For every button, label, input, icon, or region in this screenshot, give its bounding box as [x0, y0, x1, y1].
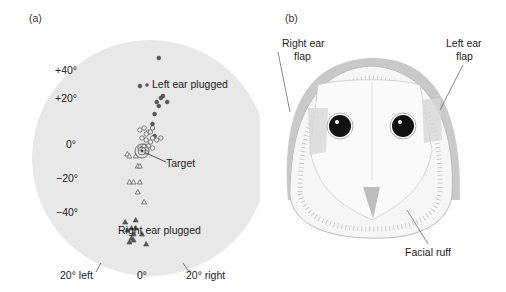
data-point: [157, 104, 161, 108]
data-point: [144, 138, 148, 142]
data-point: [150, 146, 154, 150]
panel-a: (a) +40° +20° 0° −20° −40° Left ear plug…: [0, 0, 260, 292]
data-point: [155, 100, 159, 104]
panel-label: (a): [29, 12, 42, 24]
y-tick: −20°: [56, 172, 78, 184]
data-point: [140, 136, 144, 140]
left-eye: [392, 115, 414, 137]
data-point: [148, 130, 152, 134]
y-tick: −40°: [56, 206, 78, 218]
data-point: [138, 84, 142, 88]
data-point: [153, 112, 157, 116]
y-tick: +40°: [55, 64, 77, 76]
right-eye: [329, 115, 351, 137]
panel-label: (b): [285, 12, 298, 24]
data-point: [144, 132, 148, 136]
left-ear-flap-label: flap: [456, 50, 473, 62]
data-point: [157, 56, 161, 60]
x-tick: 20° right: [186, 269, 225, 281]
right-ear-flap-label: flap: [294, 50, 311, 62]
left-ear-flap: [422, 98, 442, 143]
data-point: [161, 94, 165, 98]
data-point: [151, 122, 155, 126]
target-label: Target: [166, 157, 195, 169]
left-ear-flap-label: Left ear: [446, 37, 482, 49]
x-tick: 20° left: [60, 269, 93, 281]
left-ear-plugged-label: Left ear plugged: [152, 78, 228, 90]
panel-b: (b) Right ear flap Left ear flap Facial …: [260, 0, 506, 292]
data-point: [155, 138, 159, 142]
x-tick: 0°: [137, 269, 147, 281]
data-point: [150, 136, 154, 140]
data-point: [142, 126, 146, 130]
facial-ruff-label: Facial ruff: [405, 246, 451, 258]
data-point: [159, 136, 163, 140]
data-point: [165, 100, 169, 104]
y-tick: +20°: [55, 92, 77, 104]
right-ear-flap: [308, 108, 328, 155]
right-ear-plugged-label: Right ear plugged: [118, 224, 201, 236]
sound-localization-plot: [0, 0, 260, 292]
right-ear-flap-label: Right ear: [282, 37, 325, 49]
data-point: [138, 128, 142, 132]
y-tick: 0°: [66, 138, 76, 150]
